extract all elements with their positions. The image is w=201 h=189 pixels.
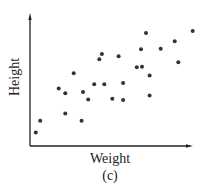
data-point: [38, 119, 42, 123]
figure-caption: (c): [80, 168, 140, 184]
data-point: [72, 71, 76, 75]
data-point: [100, 52, 104, 56]
data-point: [110, 97, 114, 101]
data-point: [135, 65, 139, 69]
data-point: [140, 65, 144, 69]
data-point: [81, 90, 85, 94]
y-axis-label: Height: [7, 47, 23, 107]
data-point: [148, 94, 152, 98]
data-point: [139, 47, 143, 51]
data-point: [63, 112, 67, 116]
data-point: [80, 119, 84, 123]
data-point: [173, 39, 177, 43]
y-axis-arrow-icon: [28, 13, 31, 20]
x-axis-label: Weight: [80, 151, 140, 167]
data-point: [121, 81, 125, 85]
data-point: [86, 97, 90, 101]
data-point: [117, 54, 121, 58]
data-point: [144, 31, 148, 35]
data-point: [57, 86, 61, 90]
data-point: [34, 131, 38, 135]
data-point: [63, 91, 67, 95]
data-point: [121, 98, 125, 102]
points-layer: [34, 29, 195, 135]
data-point: [102, 82, 106, 86]
data-point: [191, 29, 195, 33]
data-point: [176, 60, 180, 64]
data-point: [92, 82, 96, 86]
x-axis-arrow-icon: [186, 144, 193, 147]
data-point: [97, 57, 101, 61]
data-point: [159, 47, 163, 51]
data-point: [148, 73, 152, 77]
